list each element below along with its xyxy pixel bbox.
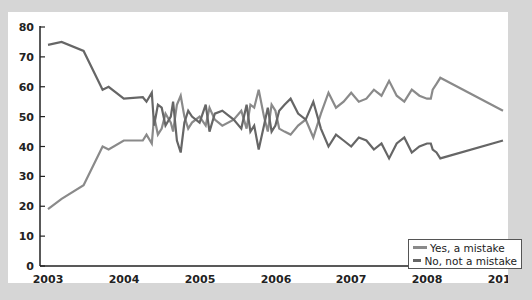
y-tick-label: 50 xyxy=(19,111,35,124)
x-tick-label: 2008 xyxy=(412,273,443,283)
legend: Yes, a mistake No, not a mistake xyxy=(408,239,522,269)
legend-label-no: No, not a mistake xyxy=(424,255,517,267)
x-tick-label: 2006 xyxy=(261,273,292,283)
y-tick-label: 80 xyxy=(19,21,35,34)
legend-swatch-yes xyxy=(413,246,427,249)
x-tick-label: 2004 xyxy=(109,273,140,283)
x-tick-label: 2003 xyxy=(33,273,64,283)
series-line-yes xyxy=(48,78,503,209)
x-tick-label: 2010 xyxy=(488,273,508,283)
chart-panel: 01020304050607080 2003200420052006200720… xyxy=(8,12,508,283)
legend-item-no: No, not a mistake xyxy=(413,254,517,267)
y-tick-label: 10 xyxy=(19,230,35,243)
legend-swatch-no xyxy=(413,259,421,262)
series-line-no xyxy=(48,42,503,158)
y-axis: 01020304050607080 xyxy=(19,21,45,273)
x-tick-label: 2007 xyxy=(336,273,367,283)
legend-label-yes: Yes, a mistake xyxy=(430,242,505,254)
y-tick-label: 30 xyxy=(19,170,35,183)
y-tick-label: 60 xyxy=(19,81,35,94)
y-tick-label: 40 xyxy=(19,141,35,154)
legend-item-yes: Yes, a mistake xyxy=(413,241,517,254)
x-tick-label: 2005 xyxy=(185,273,216,283)
series-layer xyxy=(48,42,503,209)
y-tick-label: 20 xyxy=(19,200,35,213)
y-tick-label: 70 xyxy=(19,51,35,64)
y-tick-label: 0 xyxy=(26,260,34,273)
